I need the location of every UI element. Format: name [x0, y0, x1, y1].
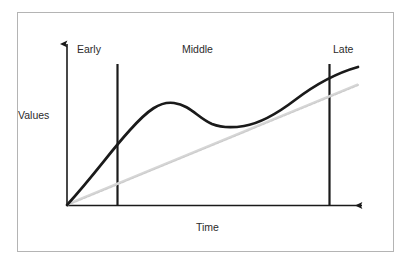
phase-label-early: Early [77, 43, 101, 55]
phase-label-late: Late [333, 43, 353, 55]
x-axis-label: Time [196, 221, 219, 233]
s-curve-series [67, 67, 358, 205]
y-axis-label: Values [18, 109, 49, 121]
phase-label-middle: Middle [182, 43, 213, 55]
chart-figure: Values Time Early Middle Late [0, 0, 411, 266]
linear-reference-line-overlay [67, 84, 358, 204]
linear-reference-line [67, 85, 358, 205]
